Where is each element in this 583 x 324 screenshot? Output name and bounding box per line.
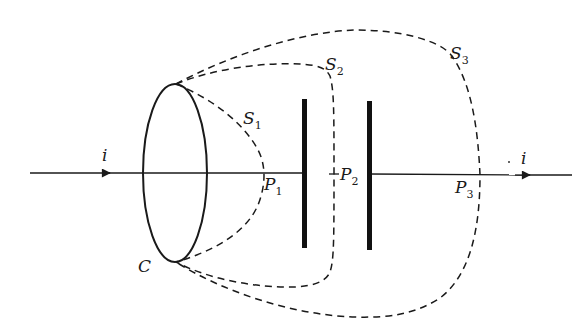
wire-right	[370, 174, 572, 175]
label-s2: S2	[325, 54, 344, 78]
decorative-dot	[508, 161, 510, 163]
label-p2: P2	[339, 164, 358, 188]
capacitor-plate-right	[367, 101, 372, 250]
label-p3: P3	[454, 177, 473, 201]
label-p1: P1	[263, 174, 282, 198]
label-s3: S3	[450, 43, 469, 67]
capacitor-ampere-diagram: i i C S1 S2 S3 P1 P2 P3	[0, 0, 583, 324]
label-current-out: i	[521, 148, 526, 168]
label-current-in: i	[102, 145, 107, 165]
label-loop-c: C	[138, 256, 151, 276]
label-s1: S1	[243, 108, 262, 132]
capacitor-plate-left	[302, 99, 307, 248]
